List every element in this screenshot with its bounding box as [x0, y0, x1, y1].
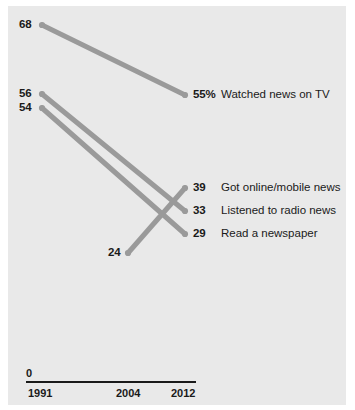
- value-label-newspaper-end: 29: [193, 227, 205, 239]
- x-tick-label-1991: 1991: [28, 387, 52, 399]
- series-label-watched-news-on-tv: Watched news on TV: [221, 88, 330, 100]
- chart-panel: 68 56 54 24 55% 39 33 29 Watched news on…: [8, 6, 346, 405]
- value-label-radio-end: 33: [193, 204, 205, 216]
- x-tick-label-2012: 2012: [171, 387, 195, 399]
- series-line-listened-to-radio-news: [42, 94, 185, 211]
- series-line-got-online-mobile-news: [128, 188, 185, 253]
- value-label-newspaper-start: 54: [19, 101, 31, 113]
- data-point-newspaper-2012: [182, 231, 188, 237]
- y-axis-zero-label: 0: [26, 367, 32, 379]
- value-label-online-end: 39: [193, 181, 205, 193]
- value-label-tv-start: 68: [19, 18, 31, 30]
- data-point-tv-1991: [39, 22, 45, 28]
- data-point-radio-1991: [39, 91, 45, 97]
- x-tick-label-2004: 2004: [116, 387, 140, 399]
- series-label-read-a-newspaper: Read a newspaper: [221, 227, 318, 239]
- data-point-online-2004: [125, 250, 131, 256]
- data-point-newspaper-1991: [39, 105, 45, 111]
- series-line-watched-news-on-tv: [42, 25, 185, 95]
- data-point-tv-2012: [182, 92, 188, 98]
- value-label-online-start: 24: [108, 246, 120, 258]
- series-label-got-online-mobile-news: Got online/mobile news: [221, 181, 341, 193]
- data-point-radio-2012: [182, 208, 188, 214]
- series-label-listened-to-radio-news: Listened to radio news: [221, 204, 336, 216]
- value-label-radio-start: 56: [19, 87, 31, 99]
- value-label-tv-end: 55%: [193, 88, 215, 100]
- data-point-online-2012: [182, 185, 188, 191]
